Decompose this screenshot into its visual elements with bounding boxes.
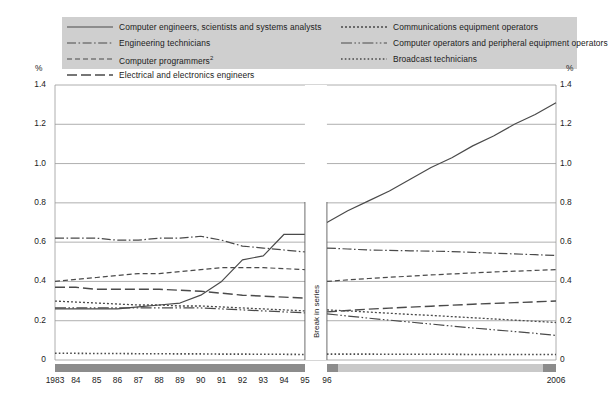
x-axis-band-highlight xyxy=(211,364,233,372)
x-axis-band-highlight xyxy=(148,364,170,372)
x-axis-band-highlight xyxy=(294,364,305,372)
series-line-pre xyxy=(55,236,305,252)
x-axis-band-highlight xyxy=(231,364,253,372)
x-axis-band-highlight xyxy=(327,364,338,372)
x-axis-band xyxy=(327,364,556,372)
x-axis-tick-label: 96 xyxy=(307,375,347,385)
series-line-post xyxy=(327,301,556,312)
series-line-post xyxy=(327,314,556,336)
x-axis-tick-label: 2006 xyxy=(536,375,576,385)
x-axis-band-highlight xyxy=(86,364,108,372)
x-axis-band-highlight xyxy=(190,364,212,372)
x-axis-band-highlight xyxy=(169,364,191,372)
x-axis-band-highlight xyxy=(252,364,274,372)
series-line-post xyxy=(327,248,556,255)
series-line-pre xyxy=(55,234,305,309)
x-axis-band-highlight xyxy=(65,364,87,372)
series-line-post xyxy=(327,103,556,223)
series-line-pre xyxy=(55,268,305,282)
x-axis-band-highlight xyxy=(127,364,149,372)
series-line-pre xyxy=(55,287,305,298)
x-axis-band-highlight xyxy=(543,364,556,372)
x-axis-band-highlight xyxy=(273,364,295,372)
x-axis-band-highlight xyxy=(55,364,65,372)
break-in-series-label: Break in series xyxy=(312,285,321,338)
series-line-pre xyxy=(55,353,305,354)
x-axis-band-highlight xyxy=(106,364,128,372)
series-line-post xyxy=(327,270,556,282)
